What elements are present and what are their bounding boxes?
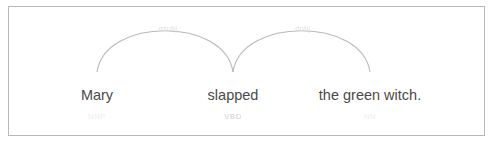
dependency-parse-visualization: nsubj dobj Mary NNP slapped VBD the gree…: [0, 0, 493, 143]
arc-label-nsubj: nsubj: [159, 25, 178, 33]
pos-tag-slapped: VBD: [224, 112, 242, 121]
token-text-the-green-witch: the green witch.: [319, 87, 421, 103]
pos-tag-the-green-witch: NN: [364, 112, 376, 121]
arc-curve-nsubj: [97, 31, 233, 72]
pos-tag-mary: NNP: [88, 112, 106, 121]
arc-label-dobj: dobj: [296, 25, 311, 33]
arc-curve-dobj: [233, 31, 370, 72]
dependency-parse-svg: nsubj dobj Mary NNP slapped VBD the gree…: [0, 0, 493, 143]
token-text-mary: Mary: [81, 87, 114, 103]
token-the-green-witch: the green witch. NN: [319, 87, 421, 121]
token-slapped: slapped VBD: [208, 87, 259, 121]
dependency-arc-nsubj: nsubj: [97, 25, 233, 72]
token-text-slapped: slapped: [208, 87, 259, 103]
token-mary: Mary NNP: [81, 87, 114, 121]
dependency-arc-dobj: dobj: [233, 25, 370, 72]
